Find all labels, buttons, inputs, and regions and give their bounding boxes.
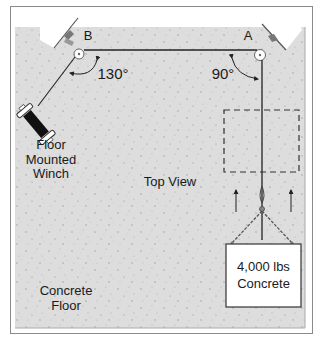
view-label: Top View xyxy=(130,175,210,190)
pulley-b-icon xyxy=(74,49,84,59)
load-material: Concrete xyxy=(226,277,301,292)
floor-label: Concrete Floor xyxy=(26,284,106,313)
anchor-a-label: A xyxy=(241,29,255,44)
anchor-b-angle: 130° xyxy=(88,66,138,83)
load-weight: 4,000 lbs xyxy=(226,260,301,275)
anchor-a-angle: 90° xyxy=(206,66,240,83)
winch-label: Floor Mounted Winch xyxy=(18,138,84,182)
anchor-b-label: B xyxy=(80,29,96,44)
rigging-diagram: B 130° A 90° Floor Mounted Winch Top Vie… xyxy=(0,0,319,340)
pulley-a-icon xyxy=(255,50,266,61)
